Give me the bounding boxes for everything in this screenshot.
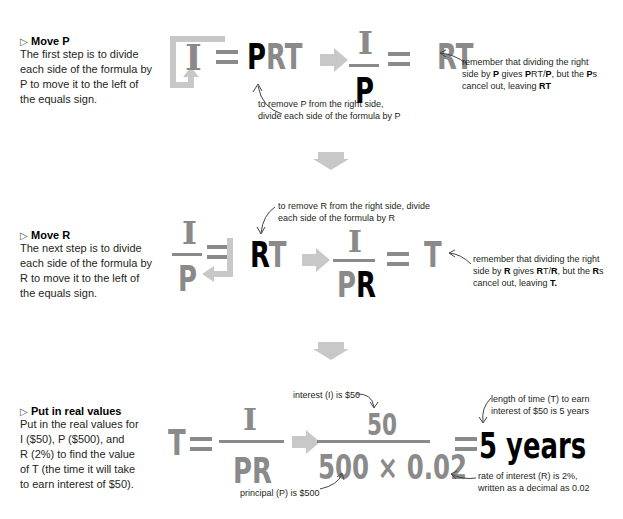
triangle-marker-icon: ▷ [20, 230, 28, 241]
note-time: length of time (T) to earn interest of $… [491, 393, 621, 417]
note-remember-r: remember that dividing the right side by… [473, 253, 623, 289]
formula-1-equals-2 [388, 52, 410, 66]
curved-arrow-icon [255, 205, 280, 235]
formula-3-denominator: PR [233, 450, 272, 491]
triangle-marker-icon: ▷ [20, 36, 28, 47]
triangle-marker-icon: ▷ [20, 406, 28, 417]
fraction-bar [333, 259, 375, 262]
curved-arrow-icon [445, 250, 475, 270]
formula-3-result: 5 years [479, 425, 586, 466]
fraction-bar [349, 64, 379, 67]
curved-arrow-icon [356, 389, 382, 411]
step-1-description: ▷Move P The first step is to divide each… [20, 35, 160, 107]
down-arrow-icon [313, 342, 349, 362]
step-1-title: ▷Move P [20, 35, 160, 47]
down-arrow-icon [313, 152, 349, 172]
formula-1-rhs: PRT [247, 36, 302, 77]
fraction-bar [317, 440, 430, 443]
formula-2-equals-2 [387, 252, 409, 266]
formula-2-denominator: P [178, 258, 197, 299]
formula-1-equals [216, 50, 238, 64]
right-arrow-icon [302, 248, 332, 272]
formula-2-denominator-2: PR [337, 264, 376, 305]
formula-3-equals [190, 437, 212, 451]
note-remember-p: remember that dividing the right side by… [462, 56, 622, 92]
curved-arrow-icon [448, 470, 478, 484]
step-3-body: Put in the real values for I ($50), P ($… [20, 417, 160, 492]
step-3-title: ▷Put in real values [20, 405, 160, 417]
right-arrow-icon [320, 48, 350, 72]
formula-3-numerator: I [243, 402, 257, 437]
formula-3-equals-2 [455, 437, 477, 451]
formula-2-rhs: RT [250, 234, 286, 275]
formula-2-result: T [424, 234, 442, 275]
formula-3-numerator-value: 50 [367, 407, 397, 442]
note-principal: principal (P) is $500 [240, 487, 320, 499]
note-interest: interest (I) is $50 [293, 389, 360, 401]
step-3-description: ▷Put in real values Put in the real valu… [20, 405, 160, 492]
return-arrow-icon [196, 238, 236, 284]
formula-3-lhs-t: T [168, 422, 186, 463]
step-2-body: The next step is to divide each side of … [20, 241, 160, 301]
formula-2-numerator: I [182, 214, 197, 252]
fraction-bar [219, 440, 284, 443]
note-remove-r: to remove R from the right side, divide … [278, 200, 478, 224]
formula-1-numerator: I [358, 24, 373, 62]
formula-1-lhs-i: I [185, 36, 202, 78]
note-rate: rate of interest (R) is 2%, written as a… [478, 470, 618, 494]
curved-arrow-icon [318, 471, 348, 493]
step-1-body: The first step is to divide each side of… [20, 47, 160, 107]
step-2-title: ▷Move R [20, 229, 160, 241]
step-2-description: ▷Move R The next step is to divide each … [20, 229, 160, 301]
formula-1-denominator: P [355, 70, 374, 111]
formula-2-numerator-2: I [348, 224, 362, 259]
